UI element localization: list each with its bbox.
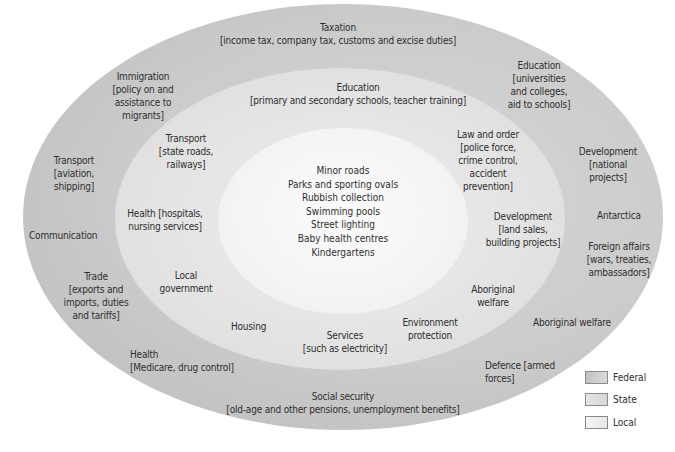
federal-taxation: Taxation [income tax, company tax, custo… [198,21,478,47]
federal-transport: Transport [aviation, shipping] [44,154,104,193]
federal-immigration: Immigration [policy on and assistance to… [98,70,188,122]
state-education: Education [primary and secondary schools… [238,81,478,107]
local-item: Parks and sporting ovals [268,178,418,192]
state-law-and-order: Law and order [police force, crime contr… [448,128,528,193]
federal-antarctica: Antarctica [597,209,641,222]
federal-defence: Defence [armed forces] [485,359,555,385]
federal-education: Education [universities and colleges, ai… [494,59,584,111]
federal-social-security: Social security [old-age and other pensi… [213,390,473,416]
legend-item-state: State [585,392,675,408]
government-responsibilities-diagram: Taxation [income tax, company tax, custo… [0,0,675,452]
legend-label: State [613,393,637,406]
state-housing: Housing [231,320,266,333]
federal-communication: Communication [29,229,97,242]
federal-development: Development [national projects] [572,145,644,184]
state-local-government: Local government [158,269,214,295]
state-health: Health [hospitals, nursing services] [120,207,210,233]
state-services: Services [such as electricity] [295,329,395,355]
local-services-list: Minor roads Parks and sporting ovals Rub… [268,164,418,259]
local-item: Baby health centres [268,232,418,246]
federal-trade: Trade [exports and imports, duties and t… [52,270,140,322]
local-item: Street lighting [268,218,418,232]
state-swatch [585,393,608,406]
state-development: Development [land sales, building projec… [478,210,568,249]
federal-foreign-affairs: Foreign affairs [wars, treaties, ambassa… [575,240,663,279]
state-environment: Environment protection [398,316,462,342]
local-item: Swimming pools [268,205,418,219]
local-item: Rubbish collection [268,191,418,205]
local-item: Kindergartens [268,246,418,260]
legend-label: Federal [613,371,646,384]
federal-health: Health [Medicare, drug control] [130,348,234,374]
local-item: Minor roads [268,164,418,178]
legend-label: Local [613,416,636,429]
federal-aboriginal-welfare: Aboriginal welfare [533,316,611,329]
local-swatch [585,416,608,429]
legend-item-federal: Federal [585,370,675,386]
legend-item-local: Local [585,415,675,431]
state-aboriginal-welfare: Aboriginal welfare [465,283,521,309]
state-transport: Transport [state roads, railways] [150,132,222,171]
federal-swatch [585,371,608,384]
